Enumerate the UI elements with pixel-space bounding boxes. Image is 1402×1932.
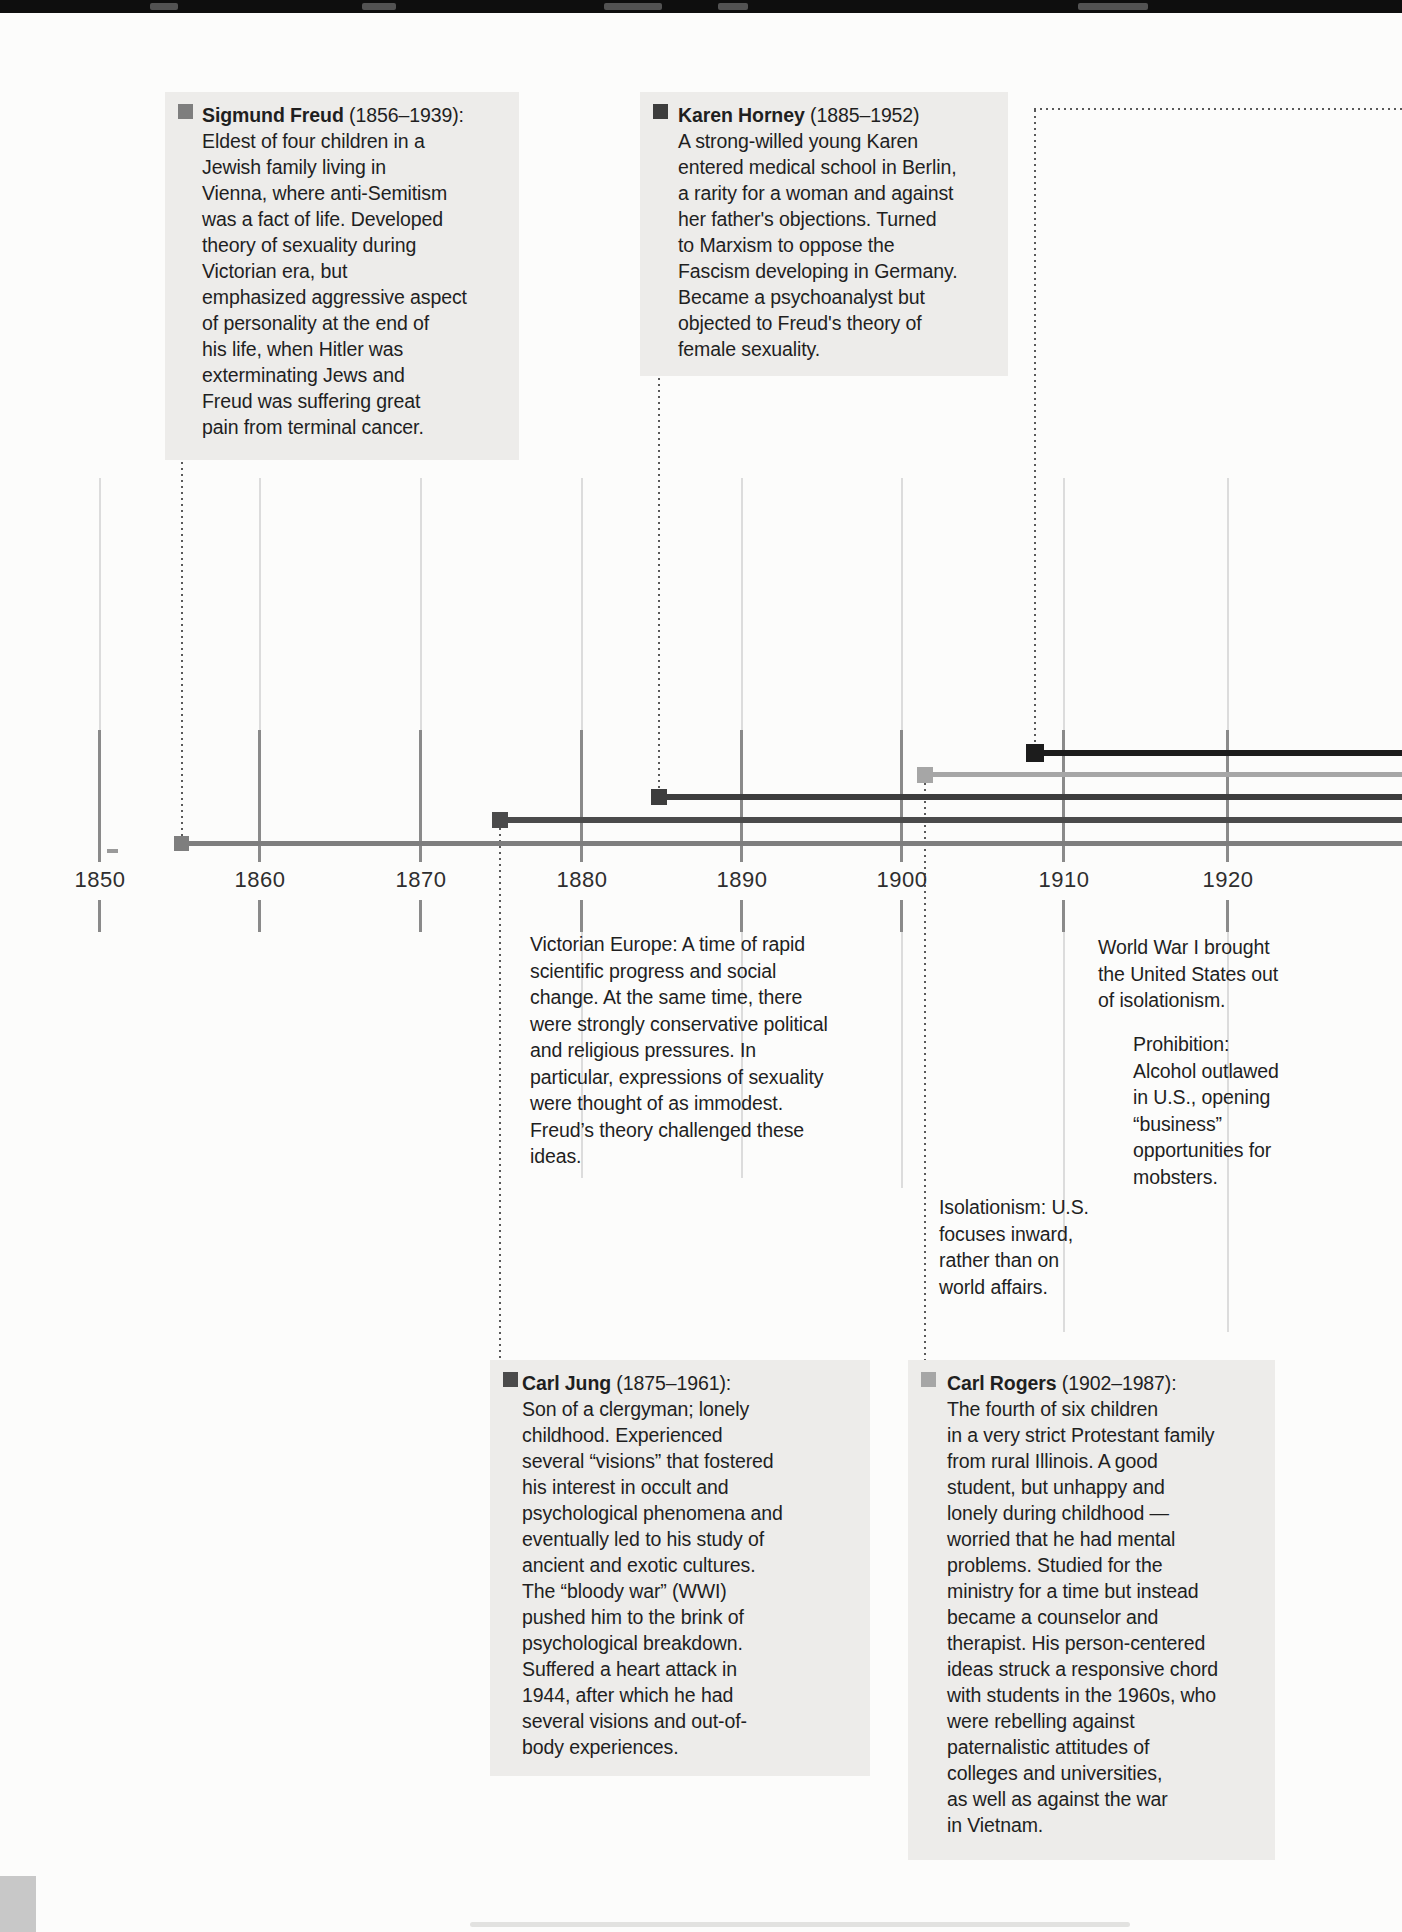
lifeline-unlabeled-marker — [1026, 744, 1044, 762]
gridline-1860-upper — [259, 478, 261, 730]
gridline-1920-upper — [1227, 478, 1229, 730]
scan-speck — [107, 849, 118, 853]
bio-box-jung: Carl Jung (1875–1961): Son of a clergyma… — [490, 1360, 870, 1776]
horney-marker-icon — [653, 104, 668, 119]
gridline-1900-upper — [901, 478, 903, 730]
lifeline-horney — [659, 794, 1402, 800]
lifeline-unlabeled — [1036, 750, 1402, 756]
bio-title-rogers: Carl Rogers (1902–1987): — [947, 1372, 1177, 1394]
bio-body-freud: Eldest of four children in a Jewish fami… — [202, 128, 512, 440]
bio-title-jung: Carl Jung (1875–1961): — [522, 1372, 731, 1394]
gridline-1870-upper — [420, 478, 422, 730]
page-bottom-shadow — [470, 1922, 1130, 1927]
lifeline-jung — [500, 817, 1402, 823]
bio-body-jung: Son of a clergyman; lonely childhood. Ex… — [522, 1396, 858, 1760]
gridline-1900-tick — [900, 900, 903, 932]
bio-title-freud: Sigmund Freud (1856–1939): — [202, 104, 464, 126]
axis-label-1890: 1890 — [717, 867, 768, 893]
scan-smudge — [150, 3, 178, 10]
connector-unlabeled-vertical — [1034, 110, 1036, 744]
gridline-1850-tick — [98, 900, 101, 932]
bio-body-rogers: The fourth of six children in a very str… — [947, 1396, 1267, 1838]
lifeline-freud — [182, 841, 1402, 846]
scan-smudge — [718, 3, 748, 10]
bio-box-rogers: Carl Rogers (1902–1987): The fourth of s… — [908, 1360, 1275, 1860]
bio-box-horney: Karen Horney (1885–1952) A strong-willed… — [640, 92, 1008, 376]
connector-unlabeled-horizontal — [1034, 108, 1402, 110]
scan-smudge — [604, 3, 662, 10]
lifeline-freud-marker — [174, 836, 189, 851]
gridline-1910-upper — [1063, 478, 1065, 730]
scan-smudge — [362, 3, 396, 10]
axis-label-1880: 1880 — [557, 867, 608, 893]
freud-marker-icon — [178, 104, 193, 119]
gridline-1900-lower — [901, 932, 903, 1188]
axis-label-1870: 1870 — [396, 867, 447, 893]
bio-box-freud: Sigmund Freud (1856–1939): Eldest of fou… — [165, 92, 519, 460]
note-victorian-europe: Victorian Europe: A time of rapid scient… — [530, 931, 890, 1170]
gridline-1850-dark — [98, 730, 101, 862]
gridline-1870-tick — [419, 900, 422, 932]
gridline-1880-tick — [580, 900, 583, 932]
jung-marker-icon — [503, 1372, 518, 1387]
bio-title-horney: Karen Horney (1885–1952) — [678, 104, 920, 126]
lifeline-rogers-marker — [917, 767, 933, 783]
gridline-1880-upper — [581, 478, 583, 730]
axis-label-1860: 1860 — [235, 867, 286, 893]
timeline-figure-page: 1850 1860 1870 1880 1890 1900 1910 1920 … — [0, 0, 1402, 1932]
page-corner-artifact — [0, 1876, 36, 1932]
gridline-1890-tick — [740, 900, 743, 932]
lifeline-rogers — [925, 772, 1402, 777]
bio-body-horney: A strong-willed young Karen entered medi… — [678, 128, 1002, 362]
axis-label-1850: 1850 — [75, 867, 126, 893]
axis-label-1910: 1910 — [1039, 867, 1090, 893]
note-prohibition: Prohibition: Alcohol outlawed in U.S., o… — [1133, 1031, 1363, 1190]
gridline-1860-tick — [258, 900, 261, 932]
gridline-1850-upper — [99, 478, 101, 730]
gridline-1890-upper — [741, 478, 743, 730]
scan-smudge — [1078, 3, 1148, 10]
page-edge-artifact — [0, 0, 1402, 13]
gridline-1910-tick — [1062, 900, 1065, 932]
axis-label-1920: 1920 — [1203, 867, 1254, 893]
lifeline-jung-marker — [492, 812, 508, 828]
note-world-war-1: World War I brought the United States ou… — [1098, 934, 1358, 1014]
note-isolationism: Isolationism: U.S. focuses inward, rathe… — [939, 1194, 1159, 1300]
gridline-1920-tick — [1226, 900, 1229, 932]
rogers-marker-icon — [921, 1372, 936, 1387]
connector-jung — [499, 828, 501, 1366]
axis-label-1900: 1900 — [877, 867, 928, 893]
lifeline-horney-marker — [651, 789, 667, 805]
